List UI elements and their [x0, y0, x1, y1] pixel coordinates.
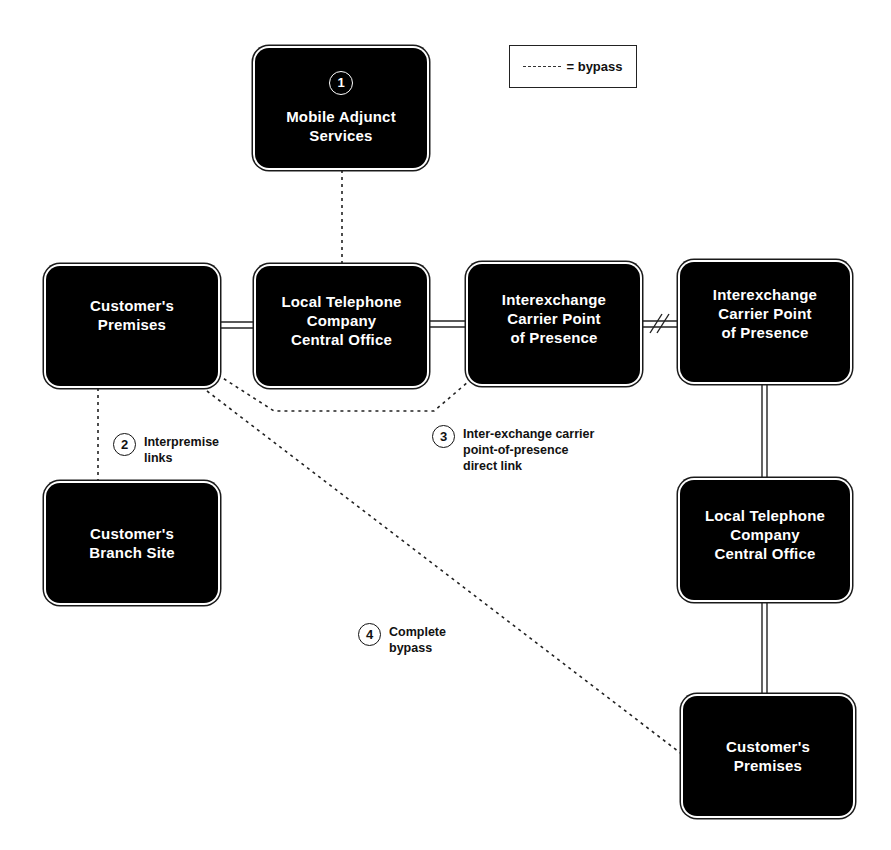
node-customers-premises-destination[interactable]: Customer's Premises [683, 696, 853, 816]
node-label: Interexchange Carrier Point of Presence [502, 290, 606, 347]
legend-label: = bypass [566, 59, 622, 74]
node-local-telephone-co-destination[interactable]: Local Telephone Company Central Office [680, 480, 850, 600]
legend-dashed-line-icon [523, 66, 561, 67]
callout-interpremise-links: 2 Interpremise links [113, 434, 219, 466]
node-customers-branch-site[interactable]: Customer's Branch Site [46, 483, 218, 603]
number-badge-2: 2 [113, 433, 136, 456]
node-label: Customer's Premises [90, 296, 174, 334]
node-ixc-pop-origin[interactable]: Interexchange Carrier Point of Presence [468, 264, 640, 384]
node-label: Customer's Premises [726, 737, 810, 775]
callout-text: Complete bypass [389, 624, 446, 656]
node-local-telephone-co-origin[interactable]: Local Telephone Company Central Office [256, 266, 427, 386]
callout-ixc-pop-direct-link: 3 Inter-exchange carrier point-of-presen… [432, 426, 594, 474]
node-label: Local Telephone Company Central Office [705, 506, 825, 563]
bypass-diagram: = bypass 1 Mobile Adjunct Services Custo… [0, 0, 891, 850]
number-badge-3: 3 [432, 425, 455, 448]
callout-complete-bypass: 4 Complete bypass [358, 624, 446, 656]
node-label: Interexchange Carrier Point of Presence [713, 285, 817, 342]
number-badge-4: 4 [358, 623, 381, 646]
callout-text: Interpremise links [144, 434, 219, 466]
callout-text: Inter-exchange carrier point-of-presence… [463, 426, 594, 474]
number-badge-1: 1 [329, 71, 353, 95]
node-label: Local Telephone Company Central Office [281, 292, 401, 349]
node-label: Mobile Adjunct Services [286, 107, 396, 145]
node-customers-premises-origin[interactable]: Customer's Premises [46, 266, 218, 386]
node-ixc-pop-destination[interactable]: Interexchange Carrier Point of Presence [680, 262, 850, 382]
legend: = bypass [509, 45, 637, 88]
node-label: Customer's Branch Site [89, 524, 175, 562]
node-mobile-adjunct-services[interactable]: 1 Mobile Adjunct Services [255, 48, 427, 168]
